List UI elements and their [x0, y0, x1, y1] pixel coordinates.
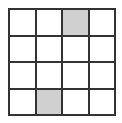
grid-cell	[89, 62, 116, 89]
grid-cell	[62, 89, 89, 116]
grid-cell	[9, 9, 36, 36]
grid-cell	[89, 36, 116, 63]
grid-cell	[9, 36, 36, 63]
grid-cell	[89, 9, 116, 36]
grid-cell	[9, 89, 36, 116]
grid-4x4	[8, 8, 116, 116]
grid-cell	[62, 62, 89, 89]
grid-cell	[62, 36, 89, 63]
grid-cell-shaded	[36, 89, 63, 116]
grid-cell	[36, 9, 63, 36]
grid-cell	[89, 89, 116, 116]
grid-cell	[36, 62, 63, 89]
grid-cell-shaded	[62, 9, 89, 36]
grid-cell	[9, 62, 36, 89]
grid-cell	[36, 36, 63, 63]
